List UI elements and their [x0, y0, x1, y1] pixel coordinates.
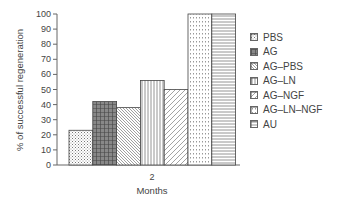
- legend: PBS AG AG–PBS AG–LN AG–NGF AG–LN–NGF AU: [250, 30, 322, 132]
- bar-au: [212, 14, 236, 165]
- bars: [69, 14, 236, 165]
- y-axis-title: % of successful regeneration: [14, 29, 25, 151]
- y-tick-label: 80: [41, 39, 51, 49]
- y-tick-label: 0: [46, 160, 51, 170]
- legend-label: AG–PBS: [263, 61, 303, 72]
- bar-ag-ln-ngf: [188, 14, 212, 165]
- legend-label: AG–LN–NGF: [263, 104, 322, 115]
- y-tick-label: 50: [41, 85, 51, 95]
- legend-item-ag-ngf: AG–NGF: [250, 88, 322, 103]
- ag-swatch-icon: [250, 48, 258, 56]
- legend-label: AG–LN: [263, 75, 296, 86]
- x-axis-title: Months: [136, 185, 167, 196]
- svg-text:% of successful regeneration: % of successful regeneration: [14, 29, 25, 151]
- ag-pbs-swatch-icon: [250, 62, 258, 70]
- au-swatch-icon: [250, 120, 258, 128]
- legend-item-au: AU: [250, 117, 322, 132]
- ag-ngf-swatch-icon: [250, 91, 258, 99]
- y-tick-label: 100: [36, 9, 51, 19]
- legend-item-ag-pbs: AG–PBS: [250, 59, 322, 74]
- ag-ln-ngf-swatch-icon: [250, 106, 258, 114]
- y-tick-label: 30: [41, 115, 51, 125]
- legend-label: AG–NGF: [263, 90, 304, 101]
- bar-ag: [93, 102, 117, 165]
- y-tick-label: 10: [41, 145, 51, 155]
- y-tick-label: 40: [41, 100, 51, 110]
- legend-item-ag-ln-ngf: AG–LN–NGF: [250, 103, 322, 118]
- bar-ag-ln: [140, 80, 164, 165]
- y-tick-label: 90: [41, 24, 51, 34]
- legend-label: AU: [263, 119, 277, 130]
- y-axis: 0102030405060708090100: [36, 9, 57, 170]
- pbs-swatch-icon: [250, 33, 258, 41]
- legend-label: PBS: [263, 32, 283, 43]
- bar-ag-pbs: [117, 108, 141, 165]
- bar-ag-ngf: [164, 90, 188, 166]
- y-tick-label: 70: [41, 54, 51, 64]
- legend-item-ag-ln: AG–LN: [250, 74, 322, 89]
- legend-label: AG: [263, 46, 277, 57]
- y-tick-label: 60: [41, 69, 51, 79]
- ag-ln-swatch-icon: [250, 77, 258, 85]
- x-tick-label: 2: [149, 172, 154, 182]
- y-tick-label: 20: [41, 130, 51, 140]
- legend-item-pbs: PBS: [250, 30, 322, 45]
- legend-item-ag: AG: [250, 45, 322, 60]
- bar-pbs: [69, 130, 93, 165]
